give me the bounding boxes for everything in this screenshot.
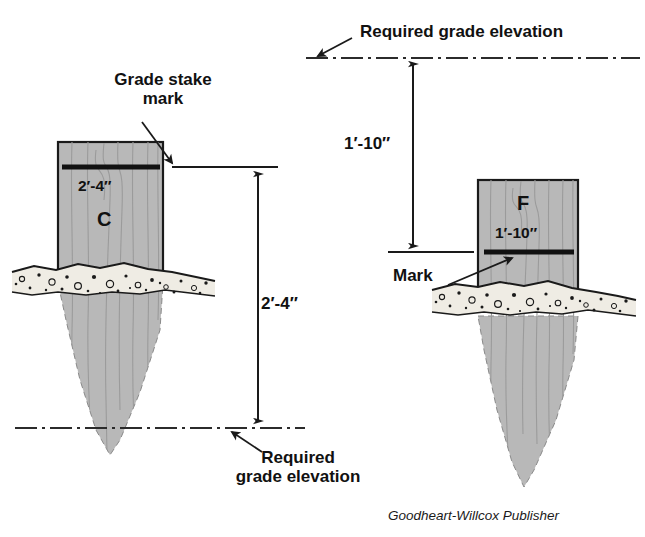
publisher-credit: Goodheart-Willcox Publisher	[388, 508, 559, 523]
left-stake-group	[12, 122, 305, 455]
right-ground-layer	[432, 281, 636, 316]
label-required-grade-elevation-bottom: Required grade elevation	[218, 448, 378, 486]
right-stake-group	[306, 38, 640, 487]
label-fill-dimension: 1′-10″	[344, 134, 390, 153]
label-cut-dimension: 2′-4″	[261, 294, 298, 313]
label-required-grade-elevation-top: Required grade elevation	[360, 22, 563, 41]
label-grade-stake-mark: Grade stake mark	[88, 70, 238, 108]
label-cut-stake-letter: C	[97, 208, 111, 230]
label-mark: Mark	[393, 266, 433, 285]
left-stake-buried-portion	[58, 283, 163, 455]
left-ground-layer	[12, 263, 215, 296]
right-grade-leader	[318, 38, 352, 56]
figure-canvas: Grade stake mark 2′-4″ C 2′-4″ Required …	[0, 0, 645, 537]
label-fill-stake-mark-dimension: 1′-10″	[495, 224, 537, 241]
label-cut-stake-mark-dimension: 2′-4″	[78, 177, 112, 194]
label-fill-stake-letter: F	[517, 192, 529, 214]
